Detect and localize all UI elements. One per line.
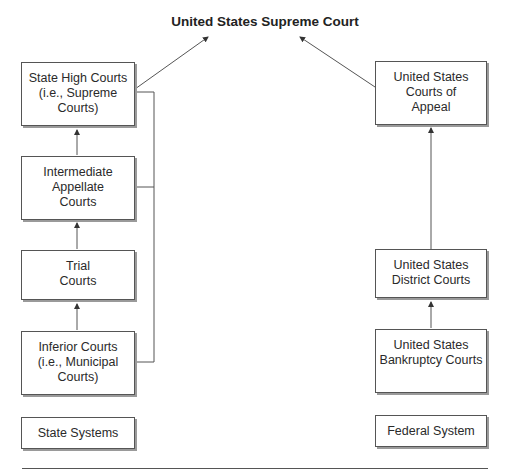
bankruptcy-courts-box: United States Bankruptcy Courts [375, 329, 487, 393]
state-high-courts-box: State High Courts (i.e., Supreme Courts) [21, 62, 135, 126]
inferior-courts-label: Inferior Courts (i.e., Municipal Courts) [38, 340, 119, 385]
state-systems-label: State Systems [38, 426, 119, 441]
trial-courts-label: Trial Courts [60, 259, 97, 289]
inferior-courts-box: Inferior Courts (i.e., Municipal Courts) [21, 331, 135, 395]
federal-system-label: Federal System [387, 424, 475, 439]
bottom-rule [22, 468, 488, 469]
intermediate-appellate-courts-box: Intermediate Appellate Courts [21, 156, 135, 220]
district-courts-box: United States District Courts [375, 249, 487, 298]
intermediate-appellate-courts-label: Intermediate Appellate Courts [43, 165, 112, 210]
courts-of-appeal-label: United States Courts of Appeal [393, 70, 468, 115]
trial-courts-box: Trial Courts [21, 250, 135, 300]
state-systems-legend-box: State Systems [21, 417, 135, 449]
federal-system-legend-box: Federal System [375, 415, 487, 447]
bankruptcy-courts-label: United States Bankruptcy Courts [380, 338, 483, 368]
courts-of-appeal-box: United States Courts of Appeal [375, 61, 487, 125]
state-high-courts-label: State High Courts (i.e., Supreme Courts) [29, 71, 128, 116]
district-courts-label: United States District Courts [392, 258, 470, 288]
